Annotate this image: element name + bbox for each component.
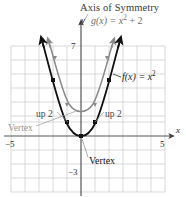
x-tick-label-neg5: −5 [5, 140, 15, 149]
axis-of-symmetry-label: Axis of Symmetry [80, 3, 159, 14]
up-two-right-label: up 2 [105, 110, 122, 120]
g-function-tail: + 2 [127, 15, 143, 26]
g-function-text: g(x) = x [91, 15, 123, 26]
x-axis-label: x [176, 126, 180, 135]
f-function-exponent: 2 [152, 70, 156, 78]
x-tick-label-5: 5 [160, 140, 165, 149]
g-function-label: g(x) = x2 + 2 [91, 16, 143, 26]
vertex-label-g: Vertex [8, 124, 33, 134]
grid-lines [11, 46, 165, 192]
y-tick-label-7: 7 [71, 42, 76, 51]
parabola-graph-figure: Axis of Symmetry y g(x) = x2 + 2 f(x) = … [0, 0, 186, 197]
y-tick-label-neg3: −3 [68, 168, 78, 177]
up-two-left-label: up 2 [36, 110, 53, 120]
f-curve-arrow-right [118, 39, 120, 48]
leader-f-label [113, 74, 121, 77]
y-axis-label: y [81, 16, 85, 25]
graph-canvas [0, 0, 186, 197]
f-function-label: f(x) = x2 [122, 72, 156, 82]
f-curve-arrow-left [42, 39, 44, 48]
leader-vertex-black [82, 139, 88, 157]
vertex-label-f: Vertex [89, 156, 115, 166]
f-function-text: f(x) = x [122, 71, 152, 82]
